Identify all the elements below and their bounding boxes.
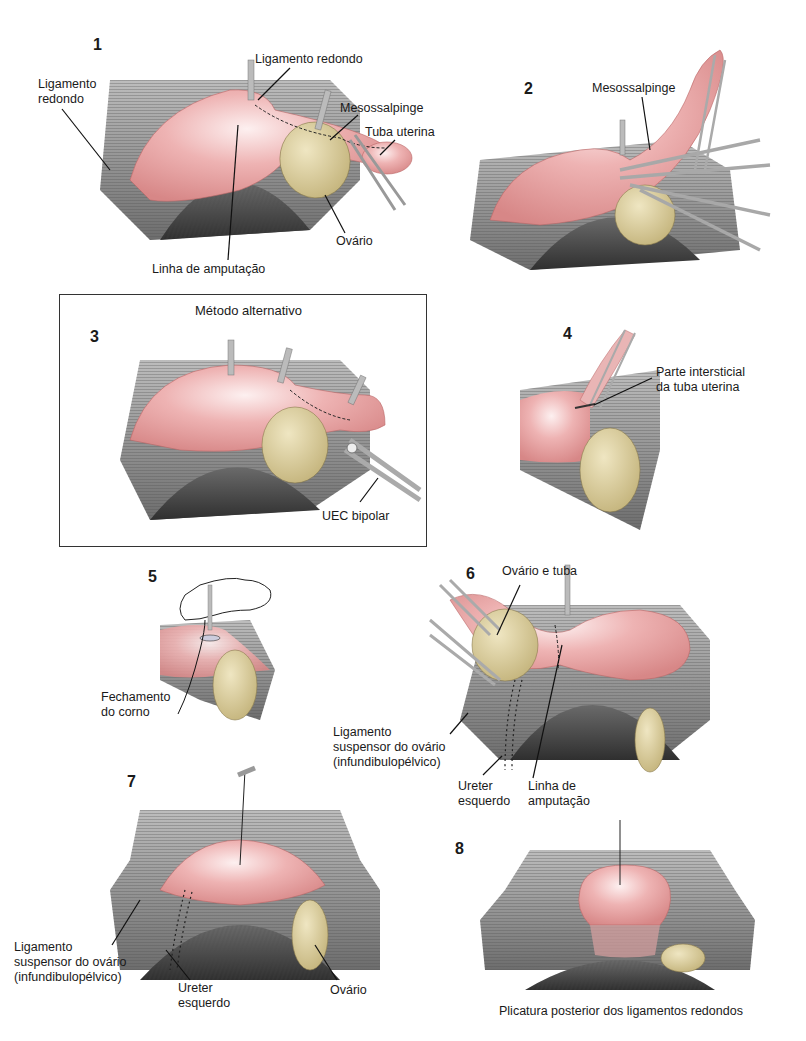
- uterus-illustration: [465, 830, 765, 1000]
- caption: Plicatura posterior dos ligamentos redon…: [499, 1004, 743, 1019]
- panel-number: 8: [455, 840, 464, 858]
